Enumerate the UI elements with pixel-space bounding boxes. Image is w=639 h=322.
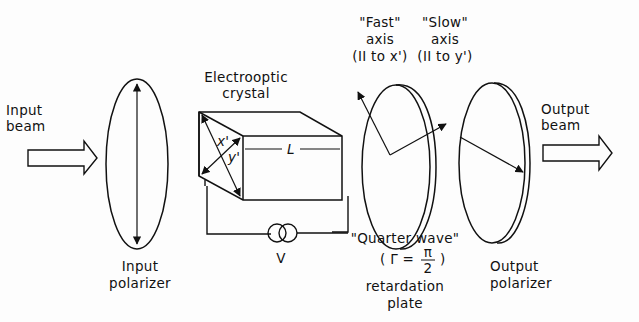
input-beam-label-2: beam <box>6 118 46 134</box>
quarter-wave-plate <box>362 85 436 249</box>
quarter-wave-label-4: plate <box>387 295 423 311</box>
voltage-circuit <box>205 180 348 242</box>
fast-axis-label-2: axis <box>366 31 394 47</box>
output-beam-label-2: beam <box>541 117 581 133</box>
output-beam-arrow-icon <box>543 136 612 170</box>
fast-slow-axes-icon <box>358 92 446 155</box>
input-polarizer <box>106 79 168 249</box>
length-label: L <box>287 141 295 157</box>
output-beam-label-1: Output <box>541 101 590 117</box>
diagram-canvas: Input beam Input polarizer Electrooptic … <box>0 0 639 322</box>
crystal-label-2: crystal <box>222 85 269 101</box>
input-polarizer-label-2: polarizer <box>109 275 171 291</box>
voltage-label: V <box>276 250 286 266</box>
svg-text:): ) <box>440 251 446 267</box>
fast-axis-label-1: "Fast" <box>359 14 400 30</box>
svg-text:( Γ =: ( Γ = <box>380 251 414 267</box>
output-polarizer <box>459 83 530 243</box>
retardation-formula: ( Γ = π 2 ) <box>380 244 446 276</box>
output-polarizer-label-2: polarizer <box>490 275 552 291</box>
slow-axis-label-2: axis <box>431 31 459 47</box>
crystal-label-1: Electrooptic <box>204 69 288 85</box>
output-polarizer-label-1: Output <box>490 258 539 274</box>
quarter-wave-label-3: retardation <box>366 278 444 294</box>
quarter-wave-label-1: "Quarter wave" <box>351 230 460 246</box>
fast-axis-label-3: (II to x') <box>352 48 407 64</box>
output-polarization-arrow-icon <box>460 137 523 172</box>
input-polarizer-label-1: Input <box>122 258 158 274</box>
axis-y-label: y' <box>227 149 240 165</box>
svg-text:2: 2 <box>424 260 433 276</box>
svg-text:π: π <box>424 244 432 260</box>
slow-axis-label-1: "Slow" <box>422 14 468 30</box>
input-beam-label-1: Input <box>6 102 42 118</box>
axis-x-label: x' <box>216 133 229 149</box>
slow-axis-label-3: (II to y') <box>417 48 472 64</box>
input-beam-arrow-icon <box>28 141 97 174</box>
